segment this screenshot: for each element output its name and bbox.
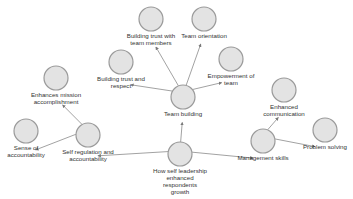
node-trust-members[interactable] [139,7,163,31]
node-label-trust-members: Building trust withteam members [127,32,176,46]
node-team-building[interactable] [171,85,195,109]
node-label-communication: Enhancedcommunication [263,103,305,117]
edge-management-to-communication [268,118,279,130]
node-label-team-orientation: Team orientation [181,32,227,39]
edge-team-building-to-team-orientation [186,44,201,85]
node-problem-solving[interactable] [313,118,337,142]
edge-team-building-to-trust-members [156,47,179,86]
node-empowerment[interactable] [219,47,243,71]
edge-self-regulation-to-mission [63,105,82,125]
node-communication[interactable] [272,78,296,102]
node-label-root: How self leadershipenhancedrespondentsgr… [153,167,207,195]
node-label-mission: Enhances missionaccomplishment [31,91,81,105]
node-root[interactable] [168,142,192,166]
node-trust-respect[interactable] [109,50,133,74]
node-label-sense-accountability: Sense ofaccountability [7,144,45,158]
node-label-problem-solving: Problem solving [303,143,347,150]
node-label-management: Management skills [237,154,288,161]
node-sense-accountability[interactable] [14,119,38,143]
node-label-trust-respect: Building trust andrespect [97,75,145,89]
node-self-regulation[interactable] [76,123,100,147]
node-team-orientation[interactable] [192,7,216,31]
node-mission[interactable] [44,66,68,90]
node-management[interactable] [251,129,275,153]
nodes [14,7,337,166]
node-label-self-regulation: Self regulation andaccountability [62,148,114,162]
node-label-team-building: Team building [164,110,202,117]
node-label-empowerment: Empowerment ofteam [208,72,255,86]
edge-root-to-team-building [181,122,183,142]
